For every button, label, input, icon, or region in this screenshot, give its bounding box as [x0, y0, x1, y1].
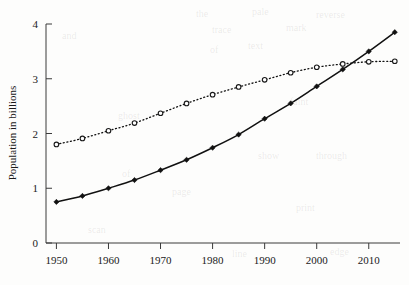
filled-diamond-marker	[158, 168, 163, 173]
open-circle-marker	[340, 62, 345, 67]
filled-diamond-marker	[80, 193, 85, 198]
open-circle-marker	[262, 78, 267, 83]
population-line-chart: 01234 1950196019701980199020002010 Popul…	[0, 0, 409, 285]
x-tick-label: 1970	[150, 254, 173, 266]
open-circle-marker	[366, 59, 371, 64]
open-circle-marker	[288, 70, 293, 75]
open-circle-marker	[236, 85, 241, 90]
filled-diamond-marker	[184, 157, 189, 162]
open-circle-marker	[132, 121, 137, 126]
filled-diamond-marker	[54, 199, 59, 204]
y-tick-label: 3	[33, 73, 39, 85]
series-dotted-markers	[54, 59, 397, 147]
x-tick-label: 1980	[202, 254, 225, 266]
open-circle-marker	[106, 128, 111, 133]
x-tick-label: 1950	[45, 254, 68, 266]
filled-diamond-marker	[106, 186, 111, 191]
filled-diamond-marker	[210, 145, 215, 150]
x-tick-label: 2000	[306, 254, 329, 266]
series-solid-line	[56, 32, 394, 202]
open-circle-marker	[314, 65, 319, 70]
y-axis-title: Population in billions	[6, 86, 18, 181]
y-axis-ticks: 01234	[33, 18, 53, 249]
y-tick-label: 2	[33, 128, 39, 140]
open-circle-marker	[392, 59, 397, 64]
open-circle-marker	[54, 142, 59, 147]
solid-series-path	[56, 32, 394, 202]
open-circle-marker	[80, 136, 85, 141]
x-tick-label: 1960	[97, 254, 120, 266]
filled-diamond-marker	[132, 177, 137, 182]
x-tick-label: 1990	[254, 254, 277, 266]
y-tick-label: 4	[33, 18, 39, 30]
y-tick-label: 0	[33, 237, 39, 249]
y-tick-label: 1	[33, 182, 39, 194]
open-circle-marker	[210, 92, 215, 97]
open-circle-marker	[158, 111, 163, 116]
open-circle-marker	[184, 101, 189, 106]
x-axis-ticks: 1950196019701980199020002010	[45, 243, 380, 266]
figure-container: thepalereverseandtracemarkoftextghostfai…	[0, 0, 409, 285]
x-tick-label: 2010	[358, 254, 381, 266]
series-solid-markers	[54, 30, 398, 205]
